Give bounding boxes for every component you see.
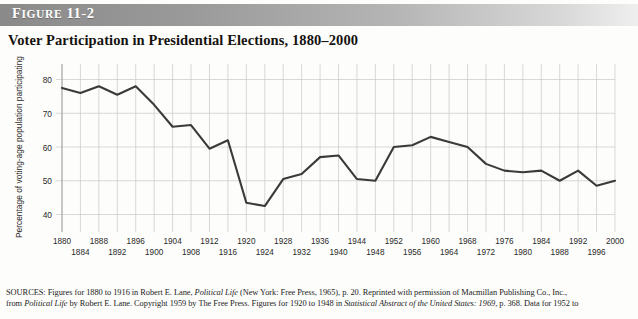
figure-number-small-caps: IGURE [21,8,62,20]
sources-line1-italic: Political Life [195,288,238,297]
x-tick-label-1928: 1928 [274,237,293,246]
x-tick-label-1888: 1888 [90,237,109,246]
x-tick-label-1912: 1912 [200,237,219,246]
x-tick-label-2000: 2000 [606,237,625,246]
x-tick-label-1992: 1992 [569,237,588,246]
sources-line2-a: from [6,299,24,308]
sources-line2-italic-1: Political Life [24,299,67,308]
x-tick-label-1920: 1920 [237,237,256,246]
x-tick-label-1896: 1896 [127,237,146,246]
x-tick-label-1940: 1940 [329,248,348,257]
chart-container: 4050607080 18801888189619041912192019281… [0,56,638,284]
x-tick-label-1944: 1944 [348,237,367,246]
sources-label: SOURCES: [6,288,46,297]
x-tick-label-1960: 1960 [422,237,441,246]
y-tick-label-50: 50 [43,176,53,186]
x-tick-label-1956: 1956 [403,248,422,257]
x-tick-label-1884: 1884 [71,248,90,257]
sources-line1-c: (New York: Free Press, 1965), p. 20. Rep… [238,288,567,297]
sources-line2-italic-2: Statistical Abstract of the United State… [344,299,495,308]
x-tick-label-1908: 1908 [182,248,201,257]
x-tick-label-1972: 1972 [477,248,496,257]
y-tick-label-40: 40 [43,210,53,220]
y-tick-label-70: 70 [43,109,53,119]
x-tick-label-1924: 1924 [256,248,275,257]
x-tick-label-1936: 1936 [311,237,330,246]
figure-root: FIGURE 11-2 Voter Participation in Presi… [0,0,638,319]
x-tick-label-1980: 1980 [514,248,533,257]
x-tick-label-1948: 1948 [366,248,385,257]
line-chart: 4050607080 18801888189619041912192019281… [0,56,638,284]
sources-line2-c: by Robert E. Lane. Copyright 1959 by The… [67,299,344,308]
x-tick-label-1968: 1968 [458,237,477,246]
x-tick-label-1916: 1916 [219,248,238,257]
page-title: Voter Participation in Presidential Elec… [8,32,358,49]
x-tick-label-1964: 1964 [440,248,459,257]
figure-number-label: FIGURE 11-2 [12,5,95,22]
y-axis-tick-labels: 4050607080 [43,75,53,220]
x-axis-tick-labels: 1880188818961904191219201928193619441952… [53,237,625,257]
x-tick-label-1988: 1988 [551,248,570,257]
figure-band [0,4,638,26]
x-tick-label-1976: 1976 [495,237,514,246]
y-tick-label-80: 80 [43,75,53,85]
y-axis-title-text: Percentage of voting-age population part… [14,56,24,238]
x-tick-label-1892: 1892 [108,248,127,257]
sources-line1-a: Figures for 1880 to 1916 in Robert E. La… [46,288,195,297]
sources-note: SOURCES: Figures for 1880 to 1916 in Rob… [6,288,636,309]
figure-number-value: 11-2 [66,5,94,21]
x-tick-label-1996: 1996 [587,248,606,257]
x-tick-label-1984: 1984 [532,237,551,246]
sources-line2-e: , p. 368. Data for 1952 to [495,299,578,308]
x-tick-label-1952: 1952 [385,237,404,246]
x-tick-label-1932: 1932 [293,248,312,257]
y-tick-label-60: 60 [43,143,53,153]
x-tick-label-1880: 1880 [53,237,72,246]
x-tick-label-1904: 1904 [163,237,182,246]
x-tick-label-1900: 1900 [145,248,164,257]
y-axis-title: Percentage of voting-age population part… [14,56,24,238]
